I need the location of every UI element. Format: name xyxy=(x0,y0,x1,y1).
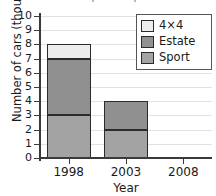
y-axis-tick xyxy=(34,73,39,74)
y-axis-tick-label: 10 xyxy=(18,10,32,21)
y-axis-tick xyxy=(34,115,39,116)
y-axis-tick-label: 2 xyxy=(18,124,32,135)
legend-swatch-4x4 xyxy=(141,20,154,32)
bar-segment-sport[interactable] xyxy=(47,115,91,158)
bar-chart: Number of cars (thousands) Year 4×4 Esta… xyxy=(0,0,216,196)
cropped-title-remnant xyxy=(0,0,216,4)
x-axis-title: Year xyxy=(40,181,212,195)
y-axis-tick xyxy=(34,87,39,88)
y-axis-line xyxy=(39,13,41,161)
y-axis-tick xyxy=(34,16,39,17)
y-axis-tick xyxy=(34,158,39,159)
bar-stack[interactable] xyxy=(47,16,91,158)
bar-segment-estate[interactable] xyxy=(47,59,91,116)
title-remnant-mark xyxy=(134,0,136,2)
legend: 4×4 Estate Sport xyxy=(136,14,212,70)
y-axis-tick-label: 3 xyxy=(18,109,32,120)
y-axis-tick xyxy=(34,144,39,145)
y-axis-tick xyxy=(34,130,39,131)
x-axis-tick-label: 1998 xyxy=(47,166,91,178)
legend-swatch-estate xyxy=(141,36,154,48)
legend-item-4x4[interactable]: 4×4 xyxy=(141,18,207,34)
y-axis-tick-label: 6 xyxy=(18,67,32,78)
x-axis-tick xyxy=(69,159,70,164)
x-axis-tick-label: 2003 xyxy=(104,166,148,178)
x-axis-tick xyxy=(183,159,184,164)
bar-segment-44[interactable] xyxy=(47,44,91,58)
y-axis-tick xyxy=(34,59,39,60)
y-axis-tick-label: 1 xyxy=(18,138,32,149)
x-axis-tick xyxy=(126,159,127,164)
y-axis-tick-label: 4 xyxy=(18,95,32,106)
legend-label-sport: Sport xyxy=(159,52,190,64)
legend-item-sport[interactable]: Sport xyxy=(141,50,207,66)
y-axis-tick-label: 0 xyxy=(18,152,32,163)
y-axis-tick-label: 8 xyxy=(18,38,32,49)
legend-item-estate[interactable]: Estate xyxy=(141,34,207,50)
y-axis-tick xyxy=(34,101,39,102)
bar-segment-estate[interactable] xyxy=(104,101,148,129)
title-remnant-mark xyxy=(92,0,94,2)
y-axis-tick xyxy=(34,30,39,31)
x-axis-tick-label: 2008 xyxy=(161,166,205,178)
y-axis-tick-label: 7 xyxy=(18,53,32,64)
legend-label-estate: Estate xyxy=(159,36,195,48)
legend-label-4x4: 4×4 xyxy=(159,20,183,32)
y-axis-tick xyxy=(34,44,39,45)
y-axis-tick-label: 5 xyxy=(18,81,32,92)
legend-swatch-sport xyxy=(141,52,154,64)
bar-segment-sport[interactable] xyxy=(104,130,148,158)
y-axis-tick-label: 9 xyxy=(18,24,32,35)
